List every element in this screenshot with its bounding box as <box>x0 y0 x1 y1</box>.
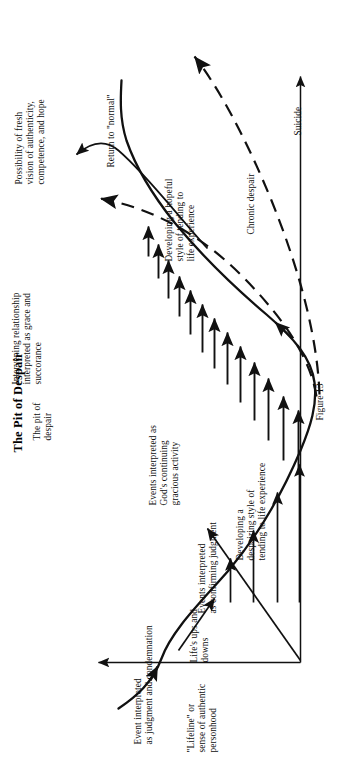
figure-number: Figure 13 <box>313 383 324 420</box>
label-intervening-relationship: Intervening relationship interpreted as … <box>10 292 44 384</box>
chronic-despair-curve <box>100 198 316 396</box>
label-possibility-fresh-vision: Possibility of fresh vision of authentic… <box>13 99 47 184</box>
recovery-direction-arrow <box>275 322 292 338</box>
label-events-confirming-judgment: Events interpreted as confirming judgmen… <box>196 522 218 613</box>
label-events-grace: Events interpreted as God's continuing g… <box>147 425 181 505</box>
label-despairing-style: Developing a despairing style of tending… <box>234 462 268 560</box>
figure-canvas: The Pit of Despair "Lifeline" or sense o… <box>0 0 361 770</box>
label-event-judgment: Event interpreted as judgment and condem… <box>132 625 154 744</box>
label-lifes-ups-and-downs: Life's ups and downs <box>188 609 210 662</box>
label-chronic-despair: Chronic despair <box>245 173 256 234</box>
label-return-to-normal: Return to "normal" <box>105 94 116 167</box>
label-pit-of-despair: The pit of despair <box>31 402 53 440</box>
figure-page: The Pit of Despair "Lifeline" or sense o… <box>0 0 361 770</box>
figure-graphics <box>0 0 361 770</box>
lifeline-curve <box>118 80 315 708</box>
label-hopeful-style: Developing a hopeful style of tending to… <box>163 178 197 261</box>
label-lifeline: "Lifeline" or sense of authentic personh… <box>185 683 219 752</box>
label-suicide: Suicide <box>292 106 303 135</box>
